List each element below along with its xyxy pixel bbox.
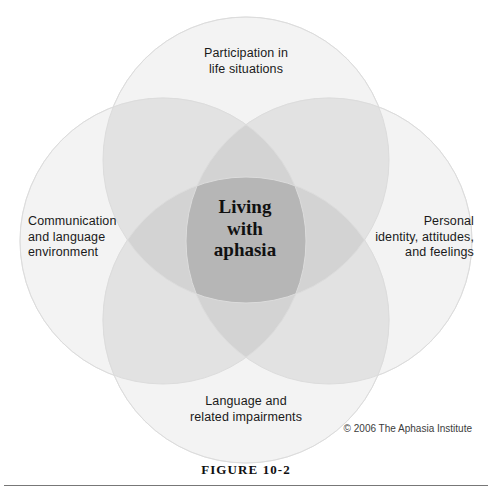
figure-caption: FIGURE 10-2 bbox=[0, 462, 492, 478]
venn-label-language-impairments: Language and related impairments bbox=[146, 394, 346, 425]
venn-label-communication-environment: Communication and language environment bbox=[28, 214, 168, 261]
venn-label-personal-identity: Personal identity, attitudes, and feelin… bbox=[330, 214, 474, 261]
figure-page: Participation in life situations Communi… bbox=[0, 0, 492, 495]
copyright-notice: © 2006 The Aphasia Institute bbox=[282, 423, 472, 435]
venn-diagram: Participation in life situations Communi… bbox=[0, 0, 492, 468]
caption-divider bbox=[4, 485, 488, 486]
venn-center-label-living-with-aphasia: Living with aphasia bbox=[175, 196, 315, 261]
venn-label-participation: Participation in life situations bbox=[146, 46, 346, 77]
